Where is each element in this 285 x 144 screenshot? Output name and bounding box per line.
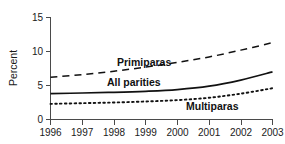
y-axis-title: Percent: [7, 50, 19, 86]
x-tick-label-1997: 1997: [71, 127, 94, 138]
line-chart-svg: 0 5 10 15 Percent 1996 1997 1998 1999 20…: [0, 0, 285, 144]
x-tick-label-2003: 2003: [261, 127, 284, 138]
y-tick-label-10: 10: [32, 46, 44, 57]
x-tick-label-1998: 1998: [103, 127, 126, 138]
x-tick-label-1999: 1999: [135, 127, 158, 138]
y-tick-label-5: 5: [37, 80, 43, 91]
y-tick-label-15: 15: [32, 12, 44, 23]
x-tick-label-2002: 2002: [230, 127, 253, 138]
chart-figure: 0 5 10 15 Percent 1996 1997 1998 1999 20…: [0, 0, 285, 144]
annotation-primiparas: Primiparas: [117, 56, 171, 68]
x-tick-label-1996: 1996: [39, 127, 62, 138]
x-tick-label-2000: 2000: [166, 127, 189, 138]
x-tick-label-2001: 2001: [198, 127, 221, 138]
annotation-all-parities: All parities: [107, 76, 161, 88]
annotation-multiparas: Multiparas: [186, 100, 239, 112]
y-tick-label-0: 0: [37, 114, 43, 125]
